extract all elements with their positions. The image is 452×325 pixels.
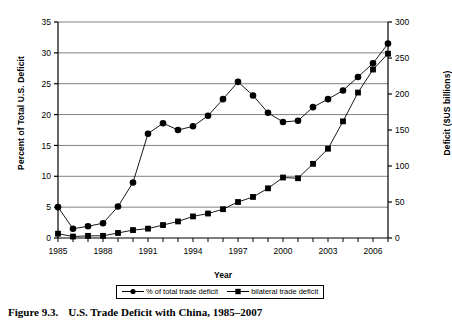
y-axis-right-ticklabel: 250 xyxy=(395,53,409,63)
data-point-bilateral xyxy=(160,222,166,228)
x-axis-ticklabel: 1994 xyxy=(184,246,203,256)
data-point-bilateral xyxy=(85,233,91,239)
data-point-bilateral xyxy=(280,175,286,181)
x-axis-ticklabel: 1991 xyxy=(139,246,158,256)
plot-area: 0510152025303505010015020025030019851988… xyxy=(0,0,446,270)
data-point-bilateral xyxy=(70,234,76,240)
x-axis-ticklabel: 2000 xyxy=(274,246,293,256)
data-point-percent xyxy=(85,223,92,230)
y-axis-left-ticklabel: 30 xyxy=(42,48,52,58)
x-axis-ticklabel: 1988 xyxy=(94,246,113,256)
x-axis-title: Year xyxy=(0,270,446,280)
y-axis-left-ticklabel: 20 xyxy=(42,110,52,120)
data-point-bilateral xyxy=(295,175,301,181)
y-axis-right-ticklabel: 150 xyxy=(395,125,409,135)
data-point-bilateral xyxy=(145,226,151,232)
data-point-bilateral xyxy=(190,214,196,220)
data-point-percent xyxy=(100,220,107,227)
data-point-percent xyxy=(340,87,347,94)
legend-marker-square-icon xyxy=(227,287,249,296)
data-point-bilateral xyxy=(175,219,181,225)
figure-caption: Figure 9.3.U.S. Trade Deficit with China… xyxy=(8,306,438,318)
data-point-percent xyxy=(70,225,77,232)
legend-item-bilateral: bilateral trade deficit xyxy=(227,287,318,296)
y-axis-left-ticklabel: 35 xyxy=(42,17,52,27)
caption-text: U.S. Trade Deficit with China, 1985–2007 xyxy=(68,306,262,318)
data-point-bilateral xyxy=(370,67,376,73)
data-point-percent xyxy=(295,117,302,124)
legend-label-bilateral: bilateral trade deficit xyxy=(251,288,318,296)
data-point-bilateral xyxy=(205,211,211,217)
y-axis-left-ticklabel: 25 xyxy=(42,79,52,89)
data-point-percent xyxy=(310,104,317,111)
data-point-percent xyxy=(385,40,392,47)
data-point-percent xyxy=(145,130,152,137)
data-point-bilateral xyxy=(325,146,331,152)
data-point-bilateral xyxy=(115,230,121,236)
chart-legend: % of total trade deficit bilateral trade… xyxy=(116,285,324,299)
data-point-percent xyxy=(130,179,137,186)
data-point-percent xyxy=(325,96,332,103)
data-point-percent xyxy=(115,203,122,210)
data-point-percent xyxy=(355,74,362,81)
data-point-bilateral xyxy=(340,118,346,124)
data-point-percent xyxy=(220,96,227,103)
data-point-bilateral xyxy=(265,185,271,191)
legend-label-percent: % of total trade deficit xyxy=(146,288,218,296)
x-axis-ticklabel: 1997 xyxy=(229,246,248,256)
data-point-bilateral xyxy=(130,227,136,233)
y-axis-left-ticklabel: 0 xyxy=(46,233,51,243)
data-point-bilateral xyxy=(100,233,106,239)
data-point-percent xyxy=(265,109,272,116)
data-point-percent xyxy=(190,123,197,130)
data-point-bilateral xyxy=(235,199,241,205)
data-point-bilateral xyxy=(310,161,316,167)
y-axis-right-ticklabel: 200 xyxy=(395,89,409,99)
caption-number: Figure 9.3. xyxy=(8,306,58,318)
data-point-percent xyxy=(235,79,242,86)
y-axis-right-ticklabel: 100 xyxy=(395,161,409,171)
data-point-bilateral xyxy=(355,90,361,96)
data-point-bilateral xyxy=(220,206,226,212)
data-point-percent xyxy=(175,127,182,134)
data-point-percent xyxy=(280,119,287,126)
chart-svg: 0510152025303505010015020025030019851988… xyxy=(0,0,446,270)
data-point-percent xyxy=(250,92,257,99)
y-axis-right-ticklabel: 0 xyxy=(395,233,400,243)
series-line-percent xyxy=(58,44,388,229)
data-point-bilateral xyxy=(55,231,61,237)
y-axis-right-ticklabel: 300 xyxy=(395,17,409,27)
data-point-bilateral xyxy=(385,51,391,57)
data-point-percent xyxy=(370,60,377,67)
data-point-percent xyxy=(205,113,212,120)
data-point-percent xyxy=(160,120,167,127)
y-axis-left-ticklabel: 15 xyxy=(42,141,52,151)
x-axis-ticklabel: 2006 xyxy=(364,246,383,256)
legend-marker-circle-icon xyxy=(122,287,144,296)
y-axis-right-ticklabel: 50 xyxy=(395,197,405,207)
data-point-bilateral xyxy=(250,194,256,200)
x-axis-ticklabel: 2003 xyxy=(319,246,338,256)
x-axis-ticklabel: 1985 xyxy=(49,246,68,256)
y-axis-left-ticklabel: 10 xyxy=(42,171,52,181)
y-axis-left-ticklabel: 5 xyxy=(46,202,51,212)
data-point-percent xyxy=(55,204,62,211)
legend-item-percent: % of total trade deficit xyxy=(122,287,218,296)
